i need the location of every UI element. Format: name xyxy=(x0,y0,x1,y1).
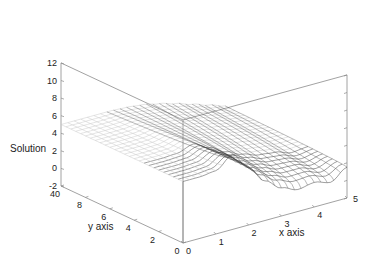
mesh-line-x xyxy=(74,121,196,178)
z-tick-label: 2 xyxy=(52,146,57,156)
x-tick-label: 1 xyxy=(219,237,224,247)
axis-line xyxy=(183,198,347,243)
x-tick xyxy=(214,232,216,234)
axis-line xyxy=(183,75,347,120)
y-tick xyxy=(61,185,64,186)
mesh-line-y xyxy=(95,123,259,141)
y-tick-label: 0 xyxy=(174,246,179,256)
z-tick-right xyxy=(344,75,347,76)
y-tick xyxy=(134,219,137,220)
z-tick-right xyxy=(344,145,347,146)
z-tick xyxy=(61,116,64,117)
x-tick xyxy=(279,214,281,216)
y-tick xyxy=(159,231,162,232)
x-tick xyxy=(312,205,314,207)
z-tick-right xyxy=(344,110,347,111)
z-tick-label: 10 xyxy=(47,76,57,86)
y-axis-label: y axis xyxy=(88,221,114,232)
surface-chart: -20246810120246840012345 Solution y axis… xyxy=(0,0,371,261)
y-tick-label: 4 xyxy=(126,223,131,233)
z-tick-label: 0 xyxy=(52,163,57,173)
mesh-line-x xyxy=(225,106,347,167)
y-tick xyxy=(85,196,88,197)
z-tick-right xyxy=(344,198,347,199)
x-tick-label: 0 xyxy=(186,246,191,256)
mesh-line-x xyxy=(81,119,203,176)
mesh-line-y xyxy=(90,120,254,138)
mesh-line-y xyxy=(100,125,264,143)
z-tick-label: 8 xyxy=(52,93,57,103)
z-tick xyxy=(61,98,64,99)
z-tick-label: 4 xyxy=(52,128,57,138)
z-tick-label: 6 xyxy=(52,111,57,121)
x-axis-label: x axis xyxy=(279,227,305,238)
mesh-line-y xyxy=(120,134,284,152)
z-tick-label: 12 xyxy=(47,58,57,68)
y-tick-label: 2 xyxy=(150,235,155,245)
z-tick xyxy=(61,168,64,169)
x-tick xyxy=(247,223,249,225)
x-tick-label: 5 xyxy=(353,194,358,204)
y-tick-label: 40 xyxy=(50,189,60,199)
y-tick-label: 8 xyxy=(77,200,82,210)
z-tick xyxy=(61,81,64,82)
z-tick xyxy=(61,133,64,134)
z-tick xyxy=(61,151,64,152)
y-tick xyxy=(110,208,113,209)
surface-mesh xyxy=(61,103,347,190)
z-tick-right xyxy=(344,180,347,181)
y-tick xyxy=(183,242,186,243)
z-tick-right xyxy=(344,93,347,94)
z-tick xyxy=(61,63,64,64)
z-axis-label: Solution xyxy=(10,143,46,154)
x-tick-label: 4 xyxy=(317,210,322,220)
z-tick-right xyxy=(344,128,347,129)
axis-line xyxy=(61,186,183,243)
z-tick-right xyxy=(344,163,347,164)
x-tick-label: 2 xyxy=(252,228,257,238)
